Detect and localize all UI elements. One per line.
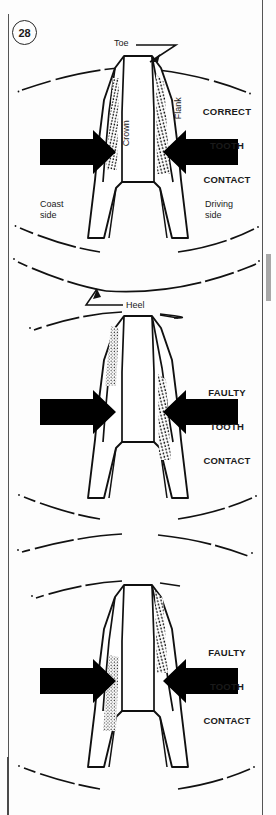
coast-side-label: Coast side bbox=[40, 178, 64, 242]
panel-1-verdict-line-2: TOOTH bbox=[196, 140, 258, 151]
panel-3-verdict: FAULTY TOOTH CONTACT bbox=[196, 625, 258, 748]
panel-3-upper-rim-arc bbox=[17, 534, 253, 556]
flank-label: Flank bbox=[173, 93, 184, 123]
coast-side-text: Coast side bbox=[40, 199, 64, 220]
driving-side-label: Driving side bbox=[205, 178, 233, 242]
panel-2-verdict: FAULTY TOOTH CONTACT bbox=[196, 365, 258, 488]
figure-number-badge: 28 bbox=[12, 20, 37, 45]
panel-3-verdict-line-1: FAULTY bbox=[196, 647, 258, 658]
panel-3-verdict-line-2: TOOTH bbox=[196, 681, 258, 692]
crown-label: Crown bbox=[121, 116, 132, 150]
panel-3-verdict-line-3: CONTACT bbox=[196, 715, 258, 726]
panel-2-verdict-line-3: CONTACT bbox=[196, 455, 258, 466]
driving-side-text: Driving side bbox=[205, 199, 233, 220]
toe-label: Toe bbox=[114, 38, 129, 49]
panel-2-verdict-line-2: TOOTH bbox=[196, 421, 258, 432]
heel-label: Heel bbox=[126, 300, 145, 311]
panel-1-verdict-line-1: CORRECT bbox=[196, 106, 258, 117]
panel-3-lower-rim-arc bbox=[18, 765, 255, 789]
heel-arc-group bbox=[13, 258, 260, 305]
panel-2-verdict-line-1: FAULTY bbox=[196, 387, 258, 398]
panel-2-lower-rim-arc bbox=[18, 494, 257, 519]
figure-page: 28 Toe Crown Flank CORRECT TOOTH CONTACT… bbox=[0, 0, 276, 815]
